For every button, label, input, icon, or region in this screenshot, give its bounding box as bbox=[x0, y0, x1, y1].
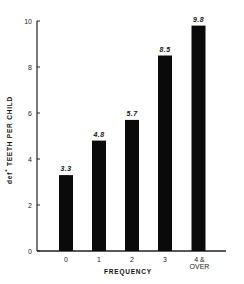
y-tick-label: 0 bbox=[28, 248, 32, 255]
bar-chart: 0246810 01234 &OVER 3.34.85.78.59.8 FREQ… bbox=[0, 0, 244, 284]
x-tick-label: OVER bbox=[190, 263, 210, 270]
bar bbox=[92, 141, 106, 251]
x-tick-label: 2 bbox=[130, 256, 134, 263]
bar-value-label: 8.5 bbox=[159, 46, 170, 53]
bar bbox=[192, 26, 206, 251]
y-tick-label: 4 bbox=[28, 156, 32, 163]
y-tick-label: 8 bbox=[28, 64, 32, 71]
bar-value-label: 4.8 bbox=[92, 131, 104, 138]
bar-value-label: 9.8 bbox=[193, 16, 204, 23]
bar bbox=[158, 56, 172, 252]
bar-value-label: 5.7 bbox=[126, 110, 138, 117]
bars: 3.34.85.78.59.8 bbox=[59, 16, 206, 251]
x-tick-label: 0 bbox=[64, 256, 68, 263]
x-tick-label: 1 bbox=[97, 256, 101, 263]
y-tick-label: 6 bbox=[28, 110, 32, 117]
bar bbox=[125, 120, 139, 251]
bar bbox=[59, 175, 73, 251]
y-axis: 0246810 bbox=[24, 18, 40, 255]
y-tick-label: 10 bbox=[24, 18, 32, 25]
x-tick-label: 3 bbox=[163, 256, 167, 263]
bar-value-label: 3.3 bbox=[60, 165, 71, 172]
y-axis-title: def* TEETH PER CHILD bbox=[4, 96, 13, 184]
x-tick-label: 4 & bbox=[194, 256, 205, 263]
x-axis-title: FREQUENCY bbox=[104, 268, 152, 276]
y-tick-label: 2 bbox=[28, 202, 32, 209]
